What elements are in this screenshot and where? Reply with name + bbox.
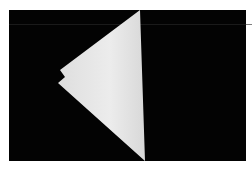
paper-triangle	[0, 0, 252, 170]
